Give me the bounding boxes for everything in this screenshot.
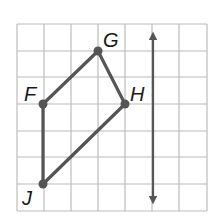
label-j: J [21, 187, 33, 209]
geometry-diagram: F G H J [0, 0, 214, 216]
vertex-h [121, 100, 130, 109]
label-f: F [24, 83, 38, 105]
vertex-j [39, 180, 48, 189]
label-h: H [130, 83, 145, 105]
label-g: G [103, 29, 119, 51]
vertex-g [94, 47, 103, 56]
quadrilateral-fghj [43, 51, 125, 184]
vertex-f [39, 100, 48, 109]
